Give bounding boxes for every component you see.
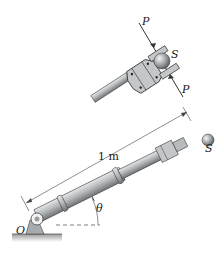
label-p-bottom: P — [181, 83, 190, 96]
label-s-inset: S — [171, 48, 179, 61]
label-o: O — [16, 224, 25, 237]
diagram-canvas: P S P S 1 m θ O — [0, 0, 224, 259]
label-theta: θ — [96, 202, 103, 215]
robot-arm — [12, 107, 214, 242]
label-p-top: P — [141, 15, 150, 28]
label-s-main: S — [205, 142, 213, 155]
sphere-s-inset — [154, 53, 170, 69]
label-length: 1 m — [98, 150, 119, 163]
gripper-inset — [91, 23, 183, 102]
